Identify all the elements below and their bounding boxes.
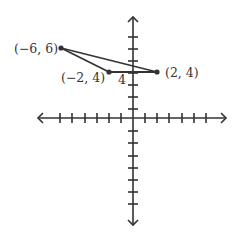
triangle [61, 48, 157, 72]
label-point-neg6-6: (−6, 6) [14, 41, 58, 56]
point-neg2-4 [106, 69, 111, 74]
point-neg6-6 [58, 45, 63, 50]
label-point-2-4: (2, 4) [165, 65, 199, 80]
axes [38, 17, 226, 225]
label-point-neg2-4: (−2, 4) [61, 70, 105, 85]
length-label: 4 [118, 72, 126, 87]
coordinate-plane: (−6, 6) (−2, 4) (2, 4) 4 [0, 0, 239, 239]
segment-a-b [61, 48, 109, 72]
segment-a-c [61, 48, 157, 72]
point-2-4 [154, 69, 159, 74]
